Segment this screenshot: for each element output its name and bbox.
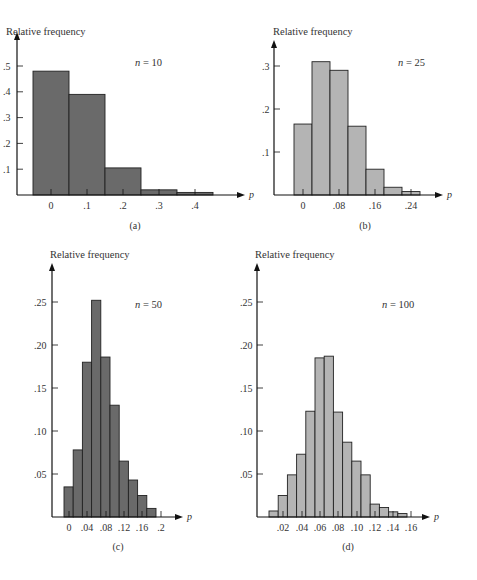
histogram-bar [69, 94, 105, 195]
y-axis-label: Relative frequency [50, 249, 130, 260]
x-tick-label: .08 [333, 200, 346, 211]
histogram-bar [33, 71, 69, 195]
histogram-bar [352, 461, 361, 517]
x-axis-arrow-icon [237, 192, 245, 198]
histogram-bar [379, 508, 388, 517]
histogram-panel-b: p.1.2.30.08.16.24Relative frequencyn = 2… [262, 26, 452, 232]
x-axis-arrow-icon [435, 192, 443, 198]
x-tick-label: .2 [157, 522, 165, 533]
histogram-bar [269, 511, 278, 517]
panel-label: (b) [359, 220, 371, 232]
histogram-bar [330, 70, 348, 195]
x-tick-label: .08 [332, 522, 345, 533]
x-tick-label: .08 [100, 522, 113, 533]
x-tick-label: .3 [155, 200, 163, 211]
y-tick-label: .5 [3, 61, 11, 72]
y-tick-label: .2 [262, 104, 270, 115]
histogram-bar [110, 405, 119, 517]
x-tick-label: .16 [369, 200, 382, 211]
y-axis-label: Relative frequency [255, 249, 335, 260]
y-tick-label: .3 [262, 61, 270, 72]
y-tick-label: .25 [34, 297, 47, 308]
histogram-bar [147, 508, 156, 517]
y-axis-label: Relative frequency [273, 26, 353, 37]
y-tick-label: .25 [240, 297, 253, 308]
y-tick-label: .3 [3, 112, 11, 123]
y-axis-arrow-icon [49, 263, 55, 271]
y-tick-label: .1 [3, 164, 11, 175]
y-tick-label: .1 [262, 147, 270, 158]
figure-canvas: p.1.2.3.4.50.1.2.3.4Relative frequencyn … [0, 0, 477, 580]
histogram-bar [324, 356, 333, 517]
y-tick-label: .05 [34, 469, 47, 480]
x-tick-label: .24 [405, 200, 418, 211]
y-tick-label: .05 [240, 469, 253, 480]
histogram-bar [361, 475, 370, 517]
histogram-panel-d: p.05.10.15.20.25.02.04.06.08.10.12.14.16… [240, 249, 439, 553]
y-tick-label: .10 [240, 426, 253, 437]
histogram-panel-a: p.1.2.3.4.50.1.2.3.4Relative frequencyn … [3, 26, 254, 232]
sample-size-annotation: n = 25 [398, 57, 425, 68]
x-tick-label: .4 [191, 200, 199, 211]
histogram-bar [128, 480, 137, 517]
sample-size-annotation: n = 50 [135, 299, 162, 310]
y-tick-label: .20 [240, 340, 253, 351]
histogram-bar [306, 411, 315, 517]
x-tick-label: .12 [118, 522, 131, 533]
histogram-bar [119, 461, 128, 517]
histogram-bar [312, 62, 330, 195]
y-tick-label: .2 [3, 138, 11, 149]
x-axis-arrow-icon [422, 514, 430, 520]
x-tick-label: .12 [369, 522, 382, 533]
y-axis-label: Relative frequency [6, 26, 86, 37]
y-tick-label: .4 [3, 86, 11, 97]
panel-label: (a) [129, 220, 140, 232]
x-axis-label: p [433, 511, 439, 522]
histogram-bar [343, 442, 352, 517]
histogram-bar [297, 454, 306, 517]
y-tick-label: .10 [34, 426, 47, 437]
x-tick-label: .02 [277, 522, 290, 533]
histogram-panel-c: p.05.10.15.20.250.04.08.12.16.2Relative … [34, 249, 192, 553]
x-tick-label: .04 [81, 522, 94, 533]
y-tick-label: .15 [240, 383, 253, 394]
panel-label: (d) [342, 541, 354, 553]
x-tick-label: .14 [387, 522, 400, 533]
x-tick-label: 0 [67, 522, 72, 533]
x-tick-label: 0 [49, 200, 54, 211]
x-axis-label: p [248, 189, 254, 200]
histogram-bar [287, 475, 296, 517]
histogram-bar [73, 450, 82, 517]
histogram-bar [82, 362, 91, 517]
sample-size-annotation: n = 10 [135, 57, 162, 68]
x-axis-label: p [186, 511, 192, 522]
histogram-bar [333, 412, 342, 517]
x-tick-label: .16 [136, 522, 149, 533]
x-tick-label: .2 [119, 200, 127, 211]
y-axis-arrow-icon [254, 263, 260, 271]
panel-label: (c) [112, 541, 123, 553]
histogram-bar [348, 126, 366, 195]
y-tick-label: .20 [34, 340, 47, 351]
histogram-bar [294, 124, 312, 195]
x-tick-label: .04 [296, 522, 309, 533]
x-tick-label: .16 [405, 522, 418, 533]
x-tick-label: .06 [314, 522, 327, 533]
x-tick-label: 0 [301, 200, 306, 211]
y-tick-label: .15 [34, 383, 47, 394]
sample-size-annotation: n = 100 [382, 299, 414, 310]
x-tick-label: .1 [83, 200, 91, 211]
histogram-bar [384, 187, 402, 195]
x-axis-arrow-icon [175, 514, 183, 520]
histogram-bar [315, 358, 324, 517]
x-axis-label: p [446, 189, 452, 200]
histogram-bar [92, 300, 101, 517]
x-tick-label: .10 [351, 522, 364, 533]
histogram-bar [101, 357, 110, 517]
y-axis-arrow-icon [271, 40, 277, 48]
